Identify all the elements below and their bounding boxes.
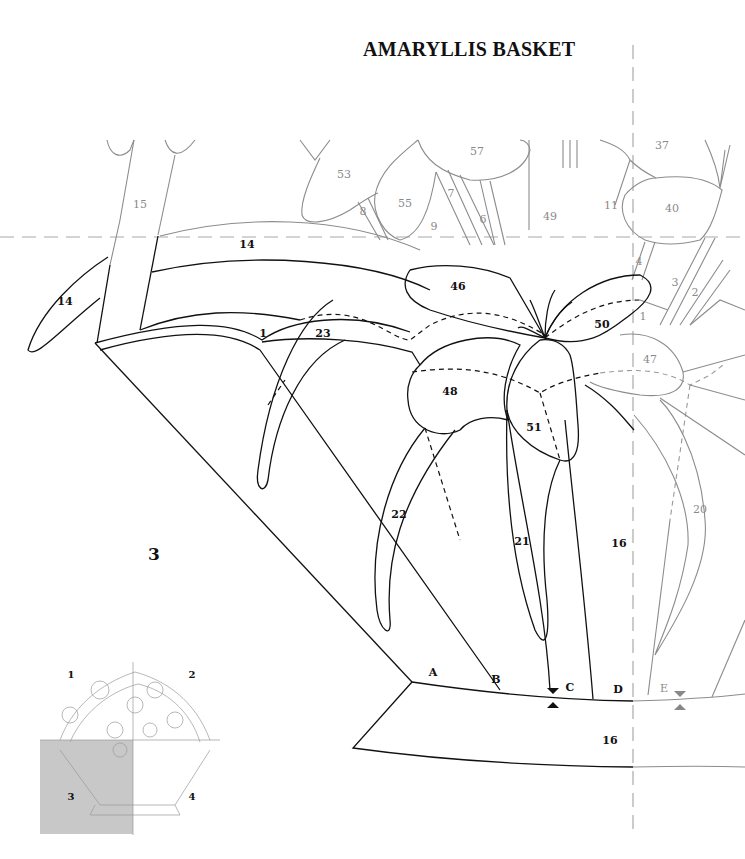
page-title: AMARYLLIS BASKET — [363, 38, 575, 61]
piece-label-adjacent: 20 — [693, 503, 707, 516]
piece-label-adjacent: 8 — [360, 205, 367, 218]
piece-label-adjacent: 9 — [431, 220, 438, 233]
adjacent-right-lines — [590, 334, 745, 767]
piece-label: 50 — [594, 318, 609, 331]
piece-label-adjacent: 37 — [655, 139, 669, 152]
alignment-mark: B — [491, 673, 500, 686]
key-map-quadrant-label: 4 — [189, 791, 196, 802]
piece-label: 23 — [315, 327, 330, 340]
alignment-mark: E — [660, 682, 668, 695]
piece-label: 14 — [239, 238, 254, 251]
piece-label: 21 — [514, 535, 529, 548]
piece-label: 16 — [611, 537, 626, 550]
piece-label: 16 — [602, 734, 617, 747]
piece-label-adjacent: 55 — [398, 197, 412, 210]
piece-label: 46 — [450, 280, 465, 293]
adjacent-section-lines — [107, 140, 745, 325]
piece-label-adjacent: 6 — [480, 213, 487, 226]
piece-label: 22 — [391, 508, 406, 521]
pattern-diagram — [0, 0, 745, 859]
key-map-quadrant-label: 1 — [68, 669, 75, 680]
alignment-mark: A — [429, 666, 438, 679]
key-map-quadrant-label: 2 — [189, 669, 196, 680]
piece-label-adjacent: 4 — [636, 255, 643, 268]
piece-label: 1 — [259, 327, 267, 340]
piece-label-adjacent: 57 — [470, 145, 484, 158]
piece-label-adjacent: 1 — [640, 310, 647, 323]
alignment-mark: C — [566, 681, 575, 694]
piece-label-adjacent: 7 — [448, 187, 455, 200]
piece-label-adjacent: 49 — [543, 210, 557, 223]
alignment-mark: D — [613, 683, 623, 696]
key-map-quadrant-label: 3 — [68, 791, 75, 802]
piece-label-adjacent: 2 — [692, 286, 699, 299]
section-number: 3 — [148, 544, 160, 564]
piece-label-adjacent: 47 — [643, 353, 657, 366]
piece-label-adjacent: 53 — [337, 168, 351, 181]
piece-label-adjacent: 3 — [672, 276, 679, 289]
piece-label: 14 — [57, 295, 72, 308]
piece-label: 48 — [442, 385, 457, 398]
piece-label: 51 — [526, 421, 541, 434]
piece-label-adjacent: 11 — [604, 199, 618, 212]
piece-label-adjacent: 40 — [665, 202, 679, 215]
piece-label-adjacent: 15 — [133, 198, 147, 211]
